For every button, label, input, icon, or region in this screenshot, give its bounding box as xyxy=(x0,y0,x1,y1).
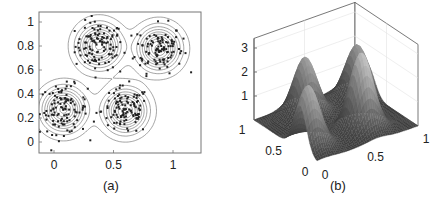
figure-a-scatter-contour: 00.5100.20.40.60.81 (a) xyxy=(0,0,215,205)
scatter-contour-plot: 00.5100.20.40.60.81 xyxy=(0,0,215,205)
y-tick-label: 0.8 xyxy=(17,39,34,53)
y-tick-label: 0.4 xyxy=(17,87,34,101)
x-tick-label: 0 xyxy=(51,158,58,172)
y-tick-label: 1 xyxy=(239,123,246,137)
y-tick-label: 0.6 xyxy=(17,63,34,77)
y-tick-label: 0 xyxy=(27,135,34,149)
x-tick-label: 0.5 xyxy=(367,150,384,164)
caption-a: (a) xyxy=(103,178,119,193)
y-tick-label: 1 xyxy=(27,15,34,29)
y-tick-label: 0 xyxy=(302,165,309,179)
x-tick-label: 0 xyxy=(322,168,329,182)
x-tick-label: 0.5 xyxy=(105,158,122,172)
x-tick-label: 1 xyxy=(423,132,430,146)
y-tick-label: 0.2 xyxy=(17,111,34,125)
z-tick-label: 2 xyxy=(241,65,248,79)
x-tick-label: 1 xyxy=(170,158,177,172)
surface-3d-plot: 12300.5100.51 xyxy=(215,0,430,205)
z-tick-label: 1 xyxy=(241,89,248,103)
figure-b-surface: 12300.5100.51 (b) xyxy=(215,0,430,205)
z-tick-label: 3 xyxy=(241,41,248,55)
caption-b: (b) xyxy=(330,178,346,193)
y-tick-label: 0.5 xyxy=(265,144,282,158)
